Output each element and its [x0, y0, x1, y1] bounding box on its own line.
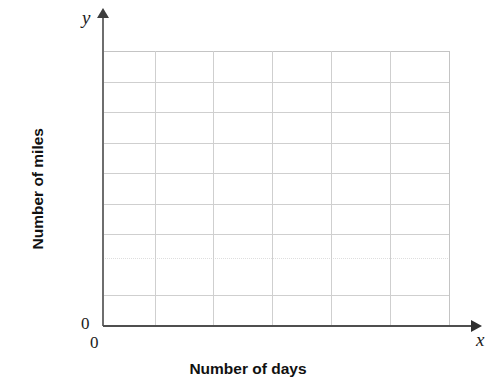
grid-line-vertical: [155, 51, 156, 326]
y-axis-line: [102, 16, 104, 326]
coordinate-grid-figure: y x 0 0 Number of miles Number of days: [0, 0, 496, 385]
x-axis-origin-label: 0: [90, 334, 99, 351]
grid-line-vertical: [449, 51, 450, 326]
x-axis-title: Number of days: [0, 361, 496, 377]
grid-line-vertical: [272, 51, 273, 326]
y-axis-variable-label: y: [82, 8, 90, 27]
plot-area: [103, 51, 450, 326]
y-axis-origin-label: 0: [81, 315, 90, 332]
grid-line-vertical: [331, 51, 332, 326]
grid-line-vertical: [213, 51, 214, 326]
grid-line-vertical: [390, 51, 391, 326]
x-axis-line: [103, 325, 473, 327]
y-axis-arrow-icon: [97, 8, 109, 18]
x-axis-variable-label: x: [476, 330, 484, 349]
y-axis-title: Number of miles: [30, 89, 46, 289]
